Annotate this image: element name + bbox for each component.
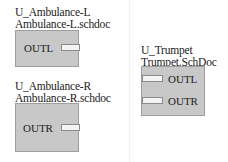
grid-line xyxy=(129,0,130,162)
sheet-designator: U_Trumpet xyxy=(141,44,192,56)
sheet-symbol-ambulance-r[interactable]: OUTR xyxy=(15,103,79,152)
sheet-entry-outr[interactable] xyxy=(142,97,163,104)
sheet-entry-outl[interactable] xyxy=(61,44,80,51)
sheet-symbol-trumpet[interactable]: OUTL OUTR xyxy=(141,66,205,116)
sheet-entry-outr[interactable] xyxy=(61,124,80,131)
sheet-symbol-ambulance-l[interactable]: OUTL xyxy=(15,30,79,67)
sheet-designator: U_Ambulance-L xyxy=(15,6,90,18)
port-label: OUTR xyxy=(168,96,198,107)
port-label: OUTL xyxy=(168,74,197,85)
sheet-entry-outl[interactable] xyxy=(142,75,163,82)
sheet-designator: U_Ambulance-R xyxy=(15,80,91,92)
port-label: OUTR xyxy=(23,123,53,134)
port-label: OUTL xyxy=(24,43,53,54)
sheet-filename: Ambulance-L.schdoc xyxy=(15,18,110,30)
